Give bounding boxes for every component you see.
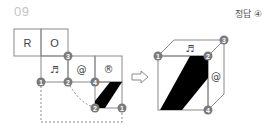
svg-text:4: 4: [93, 79, 97, 86]
svg-text:1: 1: [120, 105, 124, 112]
cube-at-sign-icon: @: [211, 71, 221, 82]
net-label-o: O: [50, 37, 59, 49]
net-shaded-stripe: [95, 82, 122, 108]
music-note-icon: ♬: [50, 64, 59, 75]
svg-text:1: 1: [39, 79, 43, 86]
cube-vertex-2: 2: [204, 52, 213, 61]
svg-text:4: 4: [206, 107, 210, 114]
cube-vertex-4: 4: [204, 106, 213, 115]
at-sign-icon: @: [77, 64, 87, 75]
net-label-r: R: [24, 37, 32, 49]
net-vertex-4: 4: [91, 78, 100, 87]
net-vertex-3: 3: [64, 52, 73, 61]
net-vertex-1: 1: [37, 78, 46, 87]
svg-text:2: 2: [66, 79, 70, 86]
svg-text:2: 2: [206, 53, 210, 60]
registered-icon: ®: [104, 64, 114, 75]
svg-text:3: 3: [66, 53, 70, 60]
right-arrow-icon: [132, 71, 148, 83]
cube-shaded-stripe: [160, 56, 208, 110]
net-vertex-2: 2: [64, 78, 73, 87]
net-vertex-2b: 2: [91, 104, 100, 113]
svg-text:3: 3: [222, 37, 226, 44]
net-vertex-1b: 1: [118, 104, 127, 113]
svg-text:2: 2: [93, 105, 97, 112]
cube-vertex-1: 1: [154, 52, 163, 61]
dashed-fold-arc: [68, 82, 95, 108]
svg-text:1: 1: [156, 53, 160, 60]
figure: R O ♬ @ ® 3 1 2 4 2 1 ♬ @ 1 2 3 4: [0, 0, 272, 130]
cube-vertex-3: 3: [220, 36, 229, 45]
cube-music-note-icon: ♬: [186, 43, 195, 54]
